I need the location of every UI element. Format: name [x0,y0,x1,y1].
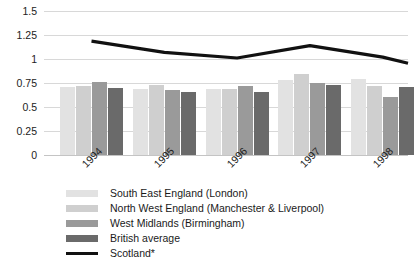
legend-swatch-icon [66,235,98,242]
legend-item: Scotland* [66,246,396,261]
y-tick-label: 0.25 [17,126,37,137]
legend-item-label: South East England (London) [110,188,248,199]
legend-item: West Midlands (Birmingham) [66,216,396,231]
y-tick-label: 0.75 [17,78,37,89]
chart-legend: South East England (London)North West En… [66,186,396,261]
y-axis: 00.250.50.7511.251.5 [0,0,40,160]
legend-item: South East England (London) [66,186,396,201]
line-series-layer [44,11,408,155]
legend-item-label: Scotland* [110,248,155,259]
scotland-line-svg [44,11,408,155]
scotland-line-path [92,41,409,63]
y-tick-label: 1.25 [17,30,37,41]
legend-swatch-icon [66,205,98,212]
legend-line-icon [66,252,98,255]
legend-item: North West England (Manchester & Liverpo… [66,201,396,216]
x-axis: 19941995199619971998 [44,156,408,190]
plot-wrapper: 00.250.50.7511.251.5 1994199519961997199… [0,0,414,160]
legend-item: British average [66,231,396,246]
legend-item-label: West Midlands (Birmingham) [110,218,245,229]
legend-item-label: British average [110,233,180,244]
y-tick-label: 0.5 [22,102,37,113]
chart-container: 00.250.50.7511.251.5 1994199519961997199… [0,0,414,271]
legend-item-label: North West England (Manchester & Liverpo… [110,203,324,214]
legend-swatch-icon [66,220,98,227]
y-tick-label: 0 [31,150,37,161]
legend-swatch-icon [66,190,98,197]
plot-area [44,11,408,155]
y-tick-label: 1 [31,54,37,65]
y-tick-label: 1.5 [22,6,37,17]
